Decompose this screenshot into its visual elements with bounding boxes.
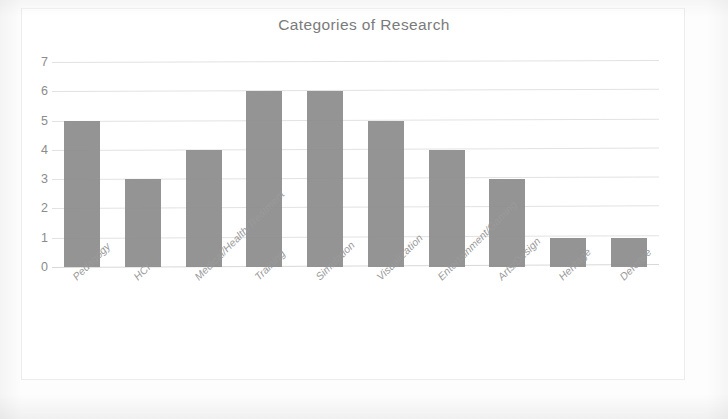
chart-figure: Categories of Research 01234567 Pedagogy… — [0, 0, 728, 419]
bar[interactable] — [307, 91, 343, 267]
plot-region — [52, 62, 659, 267]
bar[interactable] — [125, 179, 161, 267]
y-axis-tick-label: 6 — [24, 84, 48, 98]
y-axis-tick-label: 5 — [24, 114, 48, 128]
bar[interactable] — [368, 121, 404, 267]
bar[interactable] — [246, 91, 282, 267]
bar-slot — [416, 62, 477, 267]
y-axis-tick-label: 2 — [24, 201, 48, 215]
bar-slot — [356, 62, 417, 267]
y-axis: 01234567 — [24, 62, 48, 267]
chart-title: Categories of Research — [0, 16, 728, 34]
y-axis-tick-label: 4 — [24, 143, 48, 157]
bar[interactable] — [64, 121, 100, 267]
bar-slot — [113, 62, 174, 267]
y-axis-tick-label: 3 — [24, 172, 48, 186]
x-axis: PedagogyHCIMedical/Health/TreatmentTrain… — [52, 270, 659, 380]
bar-slot — [598, 62, 659, 267]
y-axis-tick-label: 1 — [24, 231, 48, 245]
bar-series — [52, 62, 659, 267]
y-axis-tick-label: 7 — [24, 55, 48, 69]
bar-slot — [295, 62, 356, 267]
y-axis-tick-label: 0 — [24, 260, 48, 274]
bar-slot — [538, 62, 599, 267]
bar-slot — [173, 62, 234, 267]
bar-slot — [52, 62, 113, 267]
